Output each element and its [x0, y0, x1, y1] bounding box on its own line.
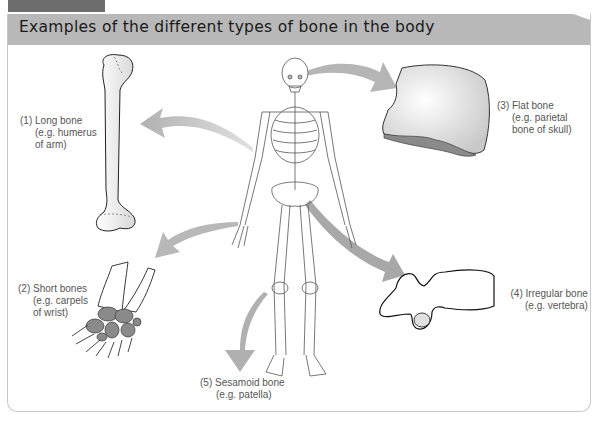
arrow-to-short-bones — [155, 222, 238, 258]
label-long-bone: (1) Long bone (e.g. humerus of arm) — [20, 115, 97, 151]
skeleton-illustration — [232, 58, 356, 376]
arrow-to-long-bone — [140, 108, 253, 152]
label-flat-bone: (3) Flat bone (e.g. parietal bone of sku… — [497, 100, 571, 136]
label-short-bones: (2) Short bones (e.g. carpels of wrist) — [18, 283, 88, 319]
arrow-to-sesamoid-bone — [225, 292, 268, 372]
parietal-bone-illustration — [383, 65, 490, 156]
label-irregular-bone: (4) Irregular bone (e.g. vertebra) — [505, 288, 588, 312]
label-sesamoid-bone: (5) Sesamoid bone (e.g. patella) — [200, 377, 285, 401]
arrow-to-flat-bone — [305, 62, 397, 92]
vertebra-illustration — [380, 270, 494, 329]
bone-diagram — [0, 0, 599, 421]
humerus-illustration — [96, 55, 135, 231]
